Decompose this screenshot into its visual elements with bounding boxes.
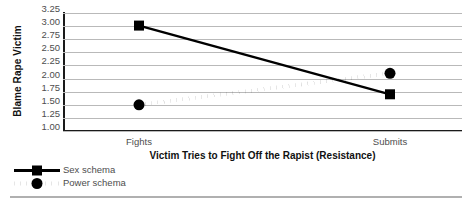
y-axis-tick-label: 1.00 <box>26 122 60 131</box>
data-point-marker <box>134 21 144 31</box>
bottom-divider <box>10 196 462 198</box>
legend-label: Sex schema <box>61 163 115 176</box>
legend-item: Sex schema <box>13 163 213 176</box>
y-axis-tick-label: 2.75 <box>26 30 60 39</box>
series-line <box>139 73 390 104</box>
y-axis-tick-label: 2.25 <box>26 56 60 65</box>
x-axis-tick-label: Submits <box>373 136 407 147</box>
data-point-marker <box>134 99 145 110</box>
x-axis-tick-label: Fights <box>126 136 152 147</box>
gridline <box>63 131 462 132</box>
plot-area <box>63 13 462 131</box>
y-axis-title: Blame Rape Victim <box>11 1 25 141</box>
legend-item: Power schema <box>13 176 213 189</box>
y-axis-tick-label: 1.75 <box>26 83 60 92</box>
data-point-marker <box>385 68 396 79</box>
y-axis-tick-label: 2.50 <box>26 43 60 52</box>
y-axis-tick-label: 3.00 <box>26 17 60 26</box>
data-point-marker <box>385 89 395 99</box>
legend-key-icon <box>13 163 61 176</box>
series-power-schema <box>134 68 396 110</box>
series-line <box>139 26 390 95</box>
y-axis-tick-label: 1.50 <box>26 96 60 105</box>
legend-key-icon <box>13 176 61 189</box>
series-sex-schema <box>134 21 395 100</box>
legend-label: Power schema <box>61 176 126 189</box>
y-axis-tick-label: 2.00 <box>26 70 60 79</box>
chart-legend: Sex schemaPower schema <box>13 163 213 189</box>
y-axis-tick-label: 1.25 <box>26 109 60 118</box>
y-axis-tick-labels: 3.253.002.752.502.252.001.751.501.251.00 <box>26 8 60 134</box>
y-axis-tick-label: 3.25 <box>26 4 60 13</box>
x-axis-title: Victim Tries to Fight Off the Rapist (Re… <box>63 150 462 161</box>
line-chart: Blame Rape Victim 3.253.002.752.502.252.… <box>0 0 471 209</box>
series-layer <box>63 13 462 131</box>
